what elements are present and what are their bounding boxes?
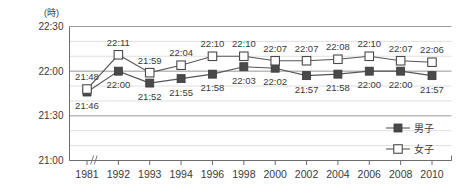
x-axis-tick-label: 2006 [358, 168, 382, 180]
data-point-marker [240, 63, 248, 71]
data-point-marker [240, 52, 249, 61]
data-point-marker [83, 85, 92, 94]
legend-marker [394, 124, 402, 132]
data-point-marker [302, 56, 311, 65]
data-point-marker [145, 68, 154, 77]
x-axis-tick-label: 1992 [107, 168, 131, 180]
x-axis-tick-label: 1998 [232, 168, 256, 180]
y-axis-tick-label: 21:00 [38, 155, 63, 166]
data-point-marker [114, 51, 123, 60]
data-point-label: 22:04 [169, 47, 193, 58]
data-point-label: 21:55 [169, 87, 193, 98]
data-point-marker [397, 67, 405, 75]
data-point-marker [365, 67, 373, 75]
data-point-label: 22:07 [295, 43, 319, 54]
x-axis-tick-label: 2010 [420, 168, 444, 180]
x-axis-tick-label: 2004 [326, 168, 350, 180]
data-point-marker [365, 52, 374, 61]
data-point-label: 22:11 [107, 37, 130, 48]
chart-container: 21:4622:0021:5221:5521:5822:0322:0221:57… [0, 0, 463, 196]
x-axis-tick-label: 2008 [389, 168, 413, 180]
data-point-label: 21:46 [75, 100, 99, 111]
x-axis-tick-label: 2002 [295, 168, 319, 180]
x-axis-tick-label: 1993 [138, 168, 162, 180]
y-axis-tick-label: 21:30 [38, 110, 63, 121]
data-point-marker [208, 70, 216, 78]
data-point-label: 21:52 [138, 91, 162, 102]
data-point-label: 22:02 [263, 76, 287, 87]
data-point-marker [208, 52, 217, 61]
line-chart: 21:4622:0021:5221:5521:5822:0322:0221:57… [0, 0, 463, 196]
data-point-label: 22:06 [420, 44, 444, 55]
data-point-label: 21:48 [75, 71, 99, 82]
x-axis-tick-label: 2000 [264, 168, 288, 180]
data-point-label: 22:03 [232, 75, 256, 86]
y-axis-tick-label: 22:30 [38, 21, 63, 32]
data-point-label: 22:08 [326, 41, 350, 52]
data-point-label: 21:58 [326, 82, 350, 93]
data-point-marker [146, 79, 154, 87]
data-point-label: 22:07 [389, 43, 413, 54]
x-axis-tick-label: 1981 [75, 168, 99, 180]
data-point-marker [428, 58, 437, 67]
data-point-label: 21:57 [420, 84, 444, 95]
data-point-marker [271, 56, 280, 65]
data-point-label: 22:00 [357, 79, 381, 90]
data-point-label: 22:00 [106, 79, 130, 90]
data-point-marker [396, 56, 405, 65]
x-axis-tick-label: 1994 [169, 168, 193, 180]
data-series [83, 51, 437, 96]
x-axis-tick-labels: 1981199219931994199619982000200220042006… [75, 168, 444, 180]
legend-marker [394, 145, 403, 154]
data-point-labels: 21:4622:0021:5221:5521:5822:0322:0221:57… [75, 37, 444, 111]
data-point-marker [177, 61, 186, 70]
data-point-marker [177, 75, 185, 83]
data-point-label: 22:10 [357, 38, 381, 49]
data-point-marker [428, 72, 436, 80]
data-point-marker [114, 67, 122, 75]
data-point-label: 21:58 [201, 82, 225, 93]
data-point-label: 22:10 [201, 38, 225, 49]
chart-legend: 男子女子 [386, 123, 434, 155]
y-axis-tick-labels: 22:3022:0021:3021:00 [38, 21, 63, 166]
y-axis-unit-label: (時) [44, 8, 59, 18]
data-point-label: 21:59 [138, 55, 162, 66]
data-point-marker [334, 70, 342, 78]
data-point-label: 22:00 [389, 79, 413, 90]
x-axis-tick-label: 1996 [201, 168, 225, 180]
data-point-label: 21:57 [295, 84, 319, 95]
legend-label: 女子 [414, 143, 434, 155]
y-axis-tick-label: 22:00 [38, 66, 63, 77]
legend-label: 男子 [414, 123, 434, 134]
data-point-label: 22:10 [232, 38, 256, 49]
data-point-marker [303, 72, 311, 80]
data-point-label: 22:07 [263, 43, 287, 54]
data-point-marker [334, 55, 343, 64]
